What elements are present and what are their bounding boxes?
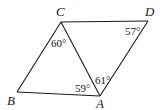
segment-cd: [61, 21, 148, 22]
quadrilateral-diagram: C D B A 60° 59° 61° 57°: [0, 0, 160, 110]
angle-label-c-60: 60°: [51, 37, 66, 49]
vertex-label-a: A: [95, 96, 104, 110]
angle-label-d-57: 57°: [125, 25, 140, 37]
vertex-label-b: B: [7, 93, 15, 108]
angle-label-a-59: 59°: [75, 82, 90, 94]
angle-label-a-61: 61°: [95, 74, 110, 86]
segment-bc: [17, 22, 61, 92]
vertex-label-c: C: [56, 4, 65, 19]
vertex-label-d: D: [144, 4, 155, 19]
